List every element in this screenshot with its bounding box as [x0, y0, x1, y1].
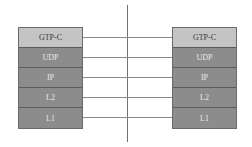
layer-l2: L2 — [173, 88, 236, 108]
left-protocol-stack: GTP-C UDP IP L2 L1 — [18, 27, 83, 129]
peer-link-gtp-c — [83, 37, 172, 38]
layer-gtp-c: GTP-C — [173, 28, 236, 48]
interface-divider-line — [127, 5, 128, 142]
right-protocol-stack: GTP-C UDP IP L2 L1 — [172, 27, 237, 129]
layer-ip: IP — [173, 68, 236, 88]
layer-gtp-c: GTP-C — [19, 28, 82, 48]
peer-link-l2 — [83, 97, 172, 98]
peer-link-udp — [83, 57, 172, 58]
peer-link-ip — [83, 77, 172, 78]
layer-l2: L2 — [19, 88, 82, 108]
layer-ip: IP — [19, 68, 82, 88]
peer-link-l1 — [83, 117, 172, 118]
layer-udp: UDP — [173, 48, 236, 68]
layer-l1: L1 — [173, 108, 236, 128]
layer-udp: UDP — [19, 48, 82, 68]
layer-l1: L1 — [19, 108, 82, 128]
